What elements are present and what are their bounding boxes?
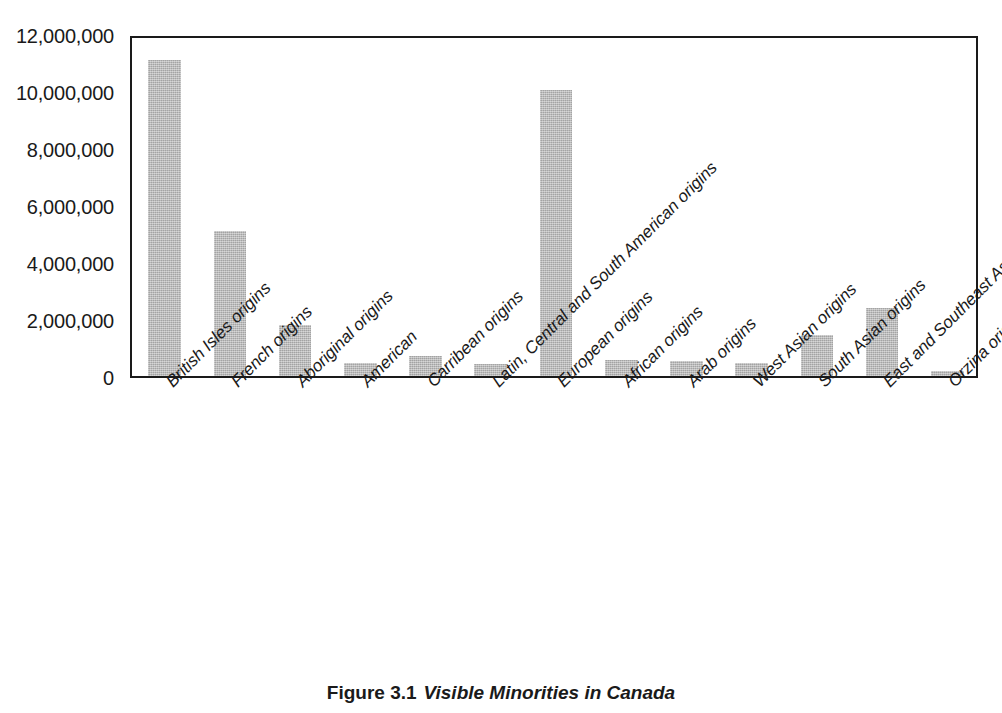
x-tick-label: British Isles origins xyxy=(163,378,175,390)
bar xyxy=(148,60,181,376)
x-tick-label: French origins xyxy=(228,378,240,390)
figure-container: 02,000,0004,000,0006,000,0008,000,00010,… xyxy=(0,0,1002,713)
x-tick-label: American xyxy=(358,378,370,390)
y-tick-label: 8,000,000 xyxy=(27,139,114,162)
x-tick-label: Arab origins xyxy=(684,378,696,390)
x-tick-label: South Asian origins xyxy=(815,378,827,390)
x-tick-label: Aboriginal origins xyxy=(293,378,305,390)
x-tick-label: East and Southeast Asian origins xyxy=(880,378,892,390)
y-tick-label: 12,000,000 xyxy=(16,25,114,48)
x-tick-label: Latin, Central and South American origin… xyxy=(489,378,501,390)
x-axis: British Isles originsFrench originsAbori… xyxy=(0,378,1002,678)
y-tick-label: 4,000,000 xyxy=(27,253,114,276)
y-tick-label: 10,000,000 xyxy=(16,82,114,105)
y-tick-label: 2,000,000 xyxy=(27,310,114,333)
x-tick-label: Orzina origins xyxy=(945,378,957,390)
x-tick-label: European origins xyxy=(554,378,566,390)
x-tick-label: West Asian origins xyxy=(750,378,762,390)
y-tick-label: 6,000,000 xyxy=(27,196,114,219)
x-tick-label: African origins xyxy=(619,378,631,390)
caption-number: Figure 3.1 xyxy=(327,682,417,703)
x-tick-label: Carribean origins xyxy=(424,378,436,390)
y-axis: 02,000,0004,000,0006,000,0008,000,00010,… xyxy=(0,36,122,378)
figure-caption: Figure 3.1Visible Minorities in Canada xyxy=(0,682,1002,704)
caption-title: Visible Minorities in Canada xyxy=(424,682,676,703)
